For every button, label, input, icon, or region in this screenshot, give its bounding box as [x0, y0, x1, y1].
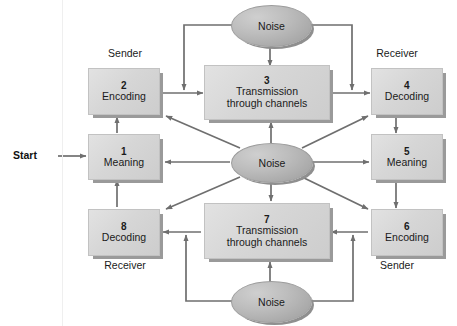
diagram-canvas: Sender Receiver Receiver Sender Start 2 …: [0, 0, 457, 326]
node-4-label: Decoding: [385, 91, 429, 103]
node-7-transmission[interactable]: 7 Transmission through channels: [204, 203, 330, 259]
node-4-decoding[interactable]: 4 Decoding: [371, 68, 443, 115]
noise-center-label: Noise: [259, 157, 286, 169]
node-7-label-line2: through channels: [227, 237, 308, 249]
node-5-meaning[interactable]: 5 Meaning: [371, 134, 443, 180]
node-5-label: Meaning: [387, 157, 427, 169]
node-8-label: Decoding: [102, 232, 146, 244]
role-label-receiver-bottom: Receiver: [88, 259, 162, 271]
node-2-encoding[interactable]: 2 Encoding: [88, 68, 160, 115]
page-margin-rule: [62, 0, 63, 326]
node-1-meaning[interactable]: 1 Meaning: [88, 134, 160, 180]
node-8-decoding[interactable]: 8 Decoding: [88, 209, 160, 256]
role-label-sender-top: Sender: [88, 47, 162, 59]
noise-center[interactable]: Noise: [231, 143, 313, 183]
noise-top-label: Noise: [258, 20, 285, 32]
node-3-label-line2: through channels: [227, 98, 308, 110]
node-6-encoding[interactable]: 6 Encoding: [371, 209, 443, 256]
node-1-label: Meaning: [104, 157, 144, 169]
node-3-transmission[interactable]: 3 Transmission through channels: [204, 65, 330, 120]
noise-top[interactable]: Noise: [231, 5, 312, 47]
start-label: Start: [13, 149, 37, 161]
node-6-label: Encoding: [385, 232, 429, 244]
role-label-receiver-top: Receiver: [360, 47, 434, 59]
noise-bottom[interactable]: Noise: [231, 281, 312, 323]
node-2-label: Encoding: [102, 91, 146, 103]
noise-bottom-label: Noise: [258, 296, 285, 308]
role-label-sender-bottom: Sender: [360, 259, 434, 271]
node-7-label: Transmission: [236, 225, 298, 237]
